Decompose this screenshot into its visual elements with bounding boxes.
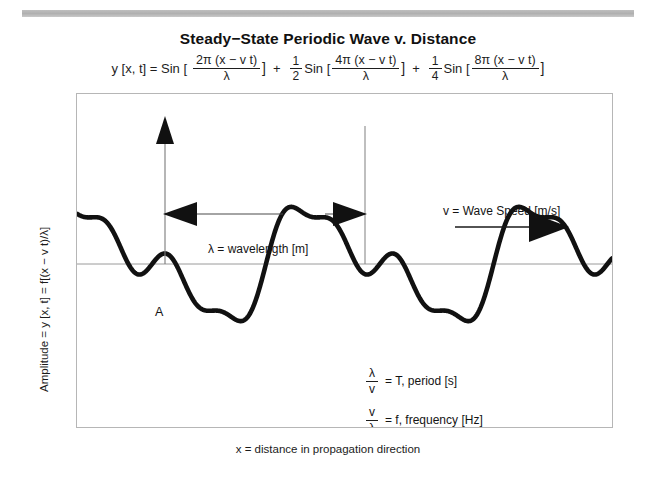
wave-speed-label: v = Wave Speed [m/s] (443, 204, 560, 218)
wave-plot-svg (77, 94, 612, 427)
frequency-fraction: v λ (366, 406, 378, 428)
term3-denominator: λ (499, 70, 511, 83)
y-axis-label: Amplitude = y [x, t] = f[(x − v t)/λ] (38, 172, 50, 392)
equation-term-3: 8π (x − v t) λ (472, 54, 539, 83)
wave-plot: λ = wavelength [m] v = Wave Speed [m/s] … (76, 93, 613, 428)
wavelength-label: λ = wavelength [m] (208, 242, 308, 256)
x-axis-label: x = distance in propagation direction (0, 443, 656, 455)
equation-lhs: y [x, t] = Sin [ (112, 61, 188, 76)
term2-numerator: 4π (x − v t) (332, 54, 399, 67)
term1-denominator: λ (220, 70, 232, 83)
relation-frequency: v λ = f, frequency [Hz] (364, 407, 507, 428)
term1-close-bracket: ] (262, 60, 266, 76)
wave-equation: y [x, t] = Sin [ 2π (x − v t) λ ] + 1 2 … (0, 54, 656, 83)
term2-close-bracket: ] (401, 60, 405, 76)
period-numerator: λ (366, 367, 378, 379)
amplitude-up-arrow-icon (156, 116, 174, 144)
coef2-numerator: 1 (290, 55, 303, 67)
relation-formula-list: λ v = T, period [s] v λ = f, frequency [… (364, 368, 507, 428)
coef2-denominator: 2 (290, 70, 303, 82)
y-axis-label-wrap: Amplitude = y [x, t] = f[(x − v t)/λ] (38, 392, 258, 404)
equation-sin-2: Sin [ (304, 61, 330, 76)
period-text: = T, period [s] (385, 374, 457, 388)
diagram-root: Steady−State Periodic Wave v. Distance y… (0, 0, 656, 480)
equation-coefficient-2: 1 2 (290, 55, 303, 82)
top-decorative-bar (22, 10, 634, 17)
period-fraction: λ v (366, 367, 378, 394)
amplitude-letter-label: A (155, 305, 163, 319)
equation-plus-2: + (412, 61, 420, 76)
coef3-numerator: 1 (429, 55, 442, 67)
frequency-denominator: λ (366, 422, 378, 429)
coef3-denominator: 4 (429, 70, 442, 82)
equation-plus-1: + (273, 61, 281, 76)
relation-period: λ v = T, period [s] (364, 368, 507, 394)
page-title: Steady−State Periodic Wave v. Distance (0, 30, 656, 48)
equation-term-2: 4π (x − v t) λ (332, 54, 399, 83)
frequency-text: = f, frequency [Hz] (385, 413, 483, 427)
term2-denominator: λ (360, 70, 372, 83)
term1-numerator: 2π (x − v t) (193, 54, 260, 67)
equation-coefficient-3: 1 4 (429, 55, 442, 82)
equation-sin-3: Sin [ (444, 61, 470, 76)
frequency-numerator: v (366, 406, 378, 418)
wavelength-left-arrow-icon (163, 202, 197, 226)
equation-term-1: 2π (x − v t) λ (193, 54, 260, 83)
term3-close-bracket: ] (541, 60, 545, 76)
period-denominator: v (366, 383, 378, 395)
wavelength-right-arrow-icon (333, 202, 367, 226)
term3-numerator: 8π (x − v t) (472, 54, 539, 67)
